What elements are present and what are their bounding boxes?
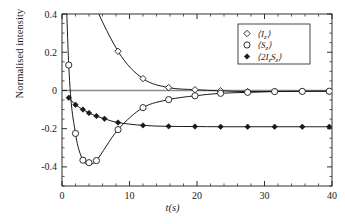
marker-filled-diamond [86,110,91,115]
x-tick-label: 10 [125,190,135,201]
x-tick-label: 40 [327,190,337,201]
plot-canvas: 010203040-0.4-0.200.20.4⟨Iz⟩⟨Sz⟩⟨2IzSz⟩ [0,0,345,224]
marker-open-circle [192,93,198,99]
marker-open-circle [299,88,305,94]
marker-open-diamond [192,86,198,92]
marker-filled-diamond [218,124,223,129]
x-tick-label: 0 [60,190,65,201]
marker-filled-diamond [166,124,171,129]
y-tick-label: -0.4 [41,161,57,172]
marker-open-circle [326,88,332,94]
marker-filled-diamond [94,113,99,118]
y-tick-label: 0.2 [45,47,58,58]
marker-open-circle [166,97,172,103]
marker-filled-diamond [300,124,305,129]
marker-filled-diamond [272,124,277,129]
marker-filled-diamond [115,120,120,125]
marker-open-circle [80,157,86,163]
marker-open-circle [66,62,72,68]
marker-open-circle [245,89,251,95]
marker-open-circle [140,105,146,111]
marker-filled-diamond [80,107,85,112]
legend-item-2[interactable] [244,42,250,48]
marker-open-circle [272,88,278,94]
x-tick-label: 30 [260,190,270,201]
marker-filled-diamond [140,123,145,128]
y-tick-label: 0 [52,85,57,96]
legend: ⟨Iz⟩⟨Sz⟩⟨2IzSz⟩ [238,24,310,64]
marker-open-circle [72,130,78,136]
legend-label: ⟨Iz⟩ [257,29,271,40]
y-tick-label: -0.2 [41,123,57,134]
marker-filled-diamond [192,124,197,129]
marker-open-circle [218,90,224,96]
marker-filled-diamond [102,116,107,121]
legend-label: ⟨Sz⟩ [257,40,272,51]
figure: Normalised intensity t(s) 010203040-0.4-… [0,0,345,224]
x-tick-label: 20 [192,190,202,201]
marker-open-circle [93,157,99,163]
marker-open-circle [115,127,121,133]
marker-open-circle [86,160,92,166]
marker-open-circle [244,42,250,48]
series-3 [66,95,332,129]
series-line [69,98,330,127]
y-tick-label: 0.4 [45,9,58,20]
marker-open-diamond [115,48,121,54]
marker-filled-diamond [245,124,250,129]
